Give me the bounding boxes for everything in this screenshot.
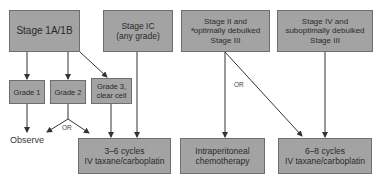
intraperitoneal-line2: chemotherapy: [196, 156, 250, 166]
stage-ii-line1: Stage II and: [204, 17, 247, 27]
grade-3-line1: Grade 3,: [97, 82, 126, 91]
cycles-6-8-box: 6–8 cycles IV taxane/carboplatin: [278, 138, 372, 174]
stage-1a-1b-label: Stage 1A/1B: [16, 25, 72, 37]
cycles-3-6-line2: IV taxane/carboplatin: [85, 156, 165, 166]
stage-ic-box: Stage IC (any grade): [103, 10, 173, 52]
stage-ii-line3: Stage III: [211, 36, 241, 46]
intraperitoneal-line1: Intraperitoneal: [195, 146, 249, 156]
stage-iv-box: Stage IV and suboptimally debulked Stage…: [277, 10, 373, 52]
stage-iv-line2: suboptimally debulked: [285, 26, 364, 36]
grade-2-label: Grade 2: [54, 88, 81, 97]
stage-1a-1b-box: Stage 1A/1B: [9, 10, 80, 52]
arrow-stage1-grade3: [80, 52, 107, 77]
stage-iv-line3: Stage III: [310, 36, 340, 46]
arrow-stage2-cycles68: [225, 52, 302, 136]
grade-2-box: Grade 2: [50, 80, 86, 104]
or-label-stage2: OR: [234, 81, 244, 88]
cycles-3-6-box: 3–6 cycles IV taxane/carboplatin: [78, 138, 171, 174]
cycles-3-6-line1: 3–6 cycles: [104, 146, 144, 156]
stage-ic-line2: (any grade): [116, 31, 159, 41]
grade-3-line2: clear cell: [97, 91, 127, 100]
stage-ic-line1: Stage IC: [121, 21, 154, 31]
or-label-grade2: OR: [62, 124, 72, 131]
grade-3-box: Grade 3, clear cell: [91, 78, 132, 104]
stage-ii-line2: ᵃoptimally debulked: [191, 26, 260, 36]
cycles-6-8-line2: IV taxane/carboplatin: [285, 156, 365, 166]
grade-1-label: Grade 1: [13, 88, 40, 97]
stage-iv-line1: Stage IV and: [302, 17, 348, 27]
stage-ii-box: Stage II and ᵃoptimally debulked Stage I…: [181, 10, 270, 52]
grade-1-box: Grade 1: [9, 80, 45, 104]
observe-label: Observe: [10, 135, 44, 145]
cycles-6-8-line1: 6–8 cycles: [305, 146, 345, 156]
intraperitoneal-box: Intraperitoneal chemotherapy: [180, 138, 265, 174]
